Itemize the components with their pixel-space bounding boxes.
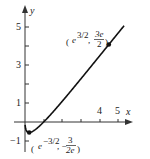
axes (14, 10, 128, 152)
y-tick-label-minus1: −1 (10, 135, 21, 146)
svg-text:e: e (38, 141, 42, 151)
y-tick-label-3: 3 (16, 59, 21, 70)
inflection-point-label: ( e 3/2 , 3e 2 ) (66, 29, 108, 49)
x-tick-label-4: 4 (97, 105, 102, 116)
x-axis-arrow-icon (125, 119, 133, 125)
svg-text:,: , (88, 35, 90, 45)
svg-text:2e: 2e (66, 145, 75, 155)
y-tick-label-5: 5 (16, 21, 21, 32)
x-axis-label: x (125, 106, 131, 117)
minimum-point (27, 130, 32, 135)
svg-text:(: ( (66, 37, 69, 47)
svg-text:3/2: 3/2 (77, 30, 89, 40)
function-plot: 4 5 5 3 1 −1 x y ( e 3/2 , 3e 2 ) ( e −3… (0, 0, 150, 159)
y-tick-label-1: 1 (16, 97, 21, 108)
minimum-point-label: ( e −3/2 , − 3 2e ) (31, 135, 80, 155)
svg-text:(: ( (31, 144, 34, 154)
svg-text:3e: 3e (94, 29, 104, 39)
y-ticks (25, 27, 29, 141)
y-axis-label: y (29, 5, 35, 16)
svg-text:3: 3 (68, 135, 73, 145)
svg-text:): ) (105, 37, 108, 47)
y-axis-arrow-icon (22, 5, 28, 13)
svg-text:2: 2 (97, 39, 102, 49)
svg-text:): ) (77, 144, 80, 154)
svg-text:e: e (72, 35, 76, 45)
x-tick-label-5: 5 (115, 105, 120, 116)
